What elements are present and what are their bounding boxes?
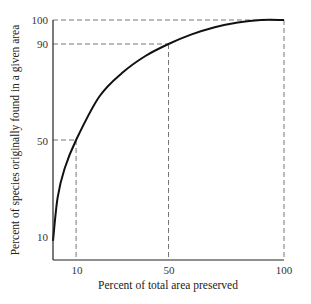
x-axis-label: Percent of total area preserved [98,279,238,292]
y-axis-label: Percent of species originally found in a… [9,25,22,256]
x-tick-50: 50 [164,264,176,276]
y-tick-10: 10 [37,231,49,243]
y-tick-50: 50 [37,135,49,147]
y-tick-90: 90 [37,38,49,50]
x-tick-100: 100 [276,264,293,276]
reference-dashed-lines [53,20,284,260]
y-tick-100: 100 [32,14,49,26]
x-tick-10: 10 [72,264,84,276]
species-area-chart: 100 90 50 10 10 50 100 Percent of total … [0,0,311,304]
x-tick-labels: 10 50 100 [72,264,293,276]
y-tick-labels: 100 90 50 10 [32,14,49,243]
